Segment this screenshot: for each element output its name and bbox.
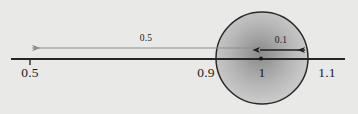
axis-tick-label-1: 1: [259, 66, 266, 80]
axis-tick-label-0-9: 0.9: [197, 66, 214, 80]
short-arrow-label: 0.1: [275, 36, 287, 46]
center-point-dot: [259, 57, 263, 61]
long-arrow-label: 0.5: [140, 34, 152, 44]
number-line-figure: [0, 0, 358, 114]
axis-tick-label-0-5: 0.5: [21, 66, 38, 80]
axis-tick-label-1-1: 1.1: [318, 66, 335, 80]
figure-container: 0.5 0.1 0.5 0.9 1 1.1: [0, 0, 358, 114]
